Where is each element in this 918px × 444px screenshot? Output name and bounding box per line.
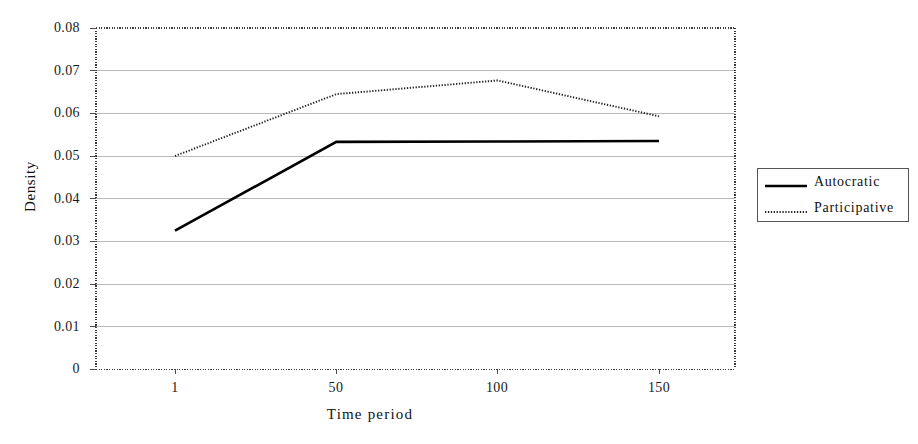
legend-item-participative: Participative: [758, 195, 908, 221]
x-tick-label-100: 100: [467, 380, 527, 396]
gridlines: [96, 28, 735, 327]
legend-swatch-solid-icon: [764, 177, 808, 187]
y-tick-label-0.01: 0.01: [16, 319, 80, 335]
y-tick-label-0.03: 0.03: [16, 233, 80, 249]
x-axis-label: Time period: [250, 406, 490, 423]
x-tick-label-150: 150: [629, 380, 689, 396]
chart-legend: Autocratic Participative: [757, 168, 909, 222]
y-axis-ticks: [90, 28, 96, 369]
legend-label-participative: Participative: [814, 200, 894, 216]
x-tick-label-1: 1: [145, 380, 205, 396]
y-tick-label-0: 0: [16, 361, 80, 377]
chart-plot-area: [0, 0, 918, 444]
x-tick-label-50: 50: [306, 380, 366, 396]
y-axis-label: Density: [22, 139, 39, 235]
y-tick-label-0.02: 0.02: [16, 276, 80, 292]
legend-label-autocratic: Autocratic: [814, 174, 880, 190]
legend-swatch-dotted-icon: [764, 203, 808, 213]
chart-figure: 0.08 0.07 0.06 0.05 0.04 0.03 0.02 0.01 …: [0, 0, 918, 444]
y-tick-label-0.06: 0.06: [16, 105, 80, 121]
y-tick-label-0.07: 0.07: [16, 63, 80, 79]
series-line-participative: [175, 80, 659, 156]
y-tick-label-0.08: 0.08: [16, 20, 80, 36]
x-axis-ticks: [175, 369, 659, 374]
series-line-autocratic: [175, 141, 659, 231]
legend-item-autocratic: Autocratic: [758, 169, 908, 195]
